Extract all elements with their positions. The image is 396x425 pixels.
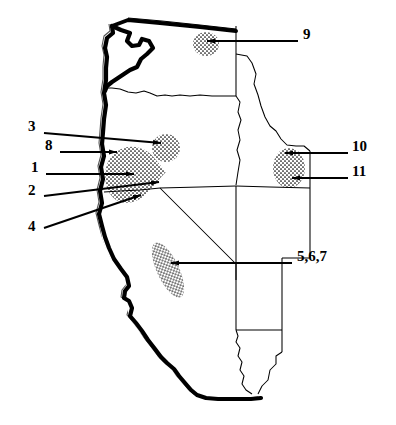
map-label-8: 8 — [45, 138, 53, 153]
map-label-1: 1 — [31, 160, 39, 175]
map-label-4: 4 — [28, 219, 36, 234]
state-fills — [100, 19, 310, 396]
map-illustration — [0, 0, 396, 425]
figure-map-western-us: 9 3 10 8 1 11 2 4 5,6,7 — [0, 0, 396, 425]
map-label-5-6-7: 5,6,7 — [297, 249, 327, 264]
map-label-9: 9 — [303, 27, 311, 42]
map-label-2: 2 — [28, 183, 36, 198]
map-label-11: 11 — [352, 164, 366, 179]
stipple-upper-oregon — [152, 134, 180, 162]
stipple-ne-washington — [193, 32, 219, 56]
map-label-3: 3 — [28, 119, 36, 134]
map-label-10: 10 — [352, 139, 367, 154]
